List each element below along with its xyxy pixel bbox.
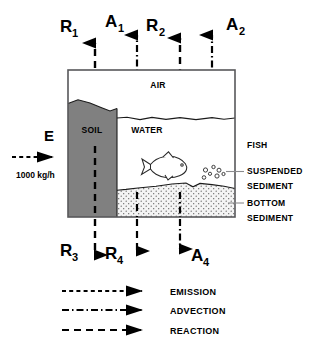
particle	[222, 172, 225, 175]
compartment-soil-body	[68, 100, 117, 217]
flux-label-r3: R	[60, 241, 72, 260]
label-air: AIR	[150, 80, 166, 90]
side-label-bottom-2: SEDIMENT	[247, 213, 294, 223]
legend-label-emission: EMISSION	[170, 287, 216, 297]
flux-sub-r3: 3	[72, 251, 78, 263]
flux-label-a4: A	[191, 246, 203, 265]
flux-sub-a2: 2	[239, 25, 245, 37]
flux-label-r1: R	[60, 17, 72, 36]
emission-label: E	[44, 127, 54, 144]
flux-sub-r1: 1	[72, 27, 78, 39]
flux-sub-a1: 1	[118, 22, 124, 34]
flux-arrow-a4: A 4	[180, 219, 210, 268]
bottom-flux-group: R 3 R 4 A 4	[60, 219, 210, 268]
flux-label-r2: R	[146, 16, 158, 35]
flux-label-a1: A	[105, 12, 117, 31]
emission-input-group: E 1000 kg/h	[12, 127, 55, 180]
flux-arrow-r3: R 3	[60, 219, 95, 263]
particle	[212, 165, 215, 168]
particle	[215, 174, 219, 178]
flux-label-a2: A	[226, 15, 238, 34]
legend: EMISSION ADVECTION REACTION	[62, 287, 226, 336]
legend-item-reaction: REACTION	[62, 326, 219, 336]
compartment-diagram: R 1 A 1 R 2 A 2	[0, 0, 316, 348]
diagram-canvas: R 1 A 1 R 2 A 2	[0, 0, 316, 348]
side-label-bottom-1: BOTTOM	[247, 198, 285, 208]
particle	[217, 168, 221, 172]
flux-arrow-r4: R 4	[105, 219, 137, 266]
flux-sub-r2: 2	[159, 26, 165, 38]
side-label-suspended-2: SEDIMENT	[247, 181, 294, 191]
label-soil: SOIL	[81, 125, 102, 135]
legend-label-reaction: REACTION	[170, 326, 219, 336]
side-label-suspended-1: SUSPENDED	[247, 166, 303, 176]
flux-sub-a4: 4	[203, 256, 210, 268]
flux-label-r4: R	[105, 244, 117, 263]
side-annotation-group: FISH SUSPENDED SEDIMENT BOTTOM SEDIMENT	[226, 140, 303, 223]
fish-body	[151, 156, 187, 177]
legend-item-emission: EMISSION	[62, 287, 216, 297]
label-water: WATER	[131, 125, 163, 135]
legend-label-advection: ADVECTION	[170, 306, 226, 316]
particle	[203, 168, 207, 172]
particle	[208, 172, 211, 175]
legend-item-advection: ADVECTION	[62, 306, 226, 316]
particle	[202, 176, 206, 180]
fish-eye	[181, 164, 184, 167]
flux-sub-r4: 4	[117, 254, 124, 266]
side-label-fish: FISH	[247, 140, 268, 150]
emission-rate-label: 1000 kg/h	[16, 170, 55, 180]
